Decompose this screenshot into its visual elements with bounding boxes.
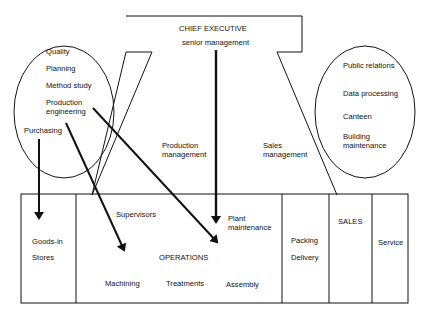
- production-management-line1: Production: [162, 141, 198, 150]
- supervisors-label: Supervisors: [116, 210, 156, 219]
- machining-label: Machining: [105, 279, 140, 288]
- operations-label: OPERATIONS: [159, 253, 208, 262]
- delivery-label: Delivery: [291, 253, 318, 262]
- chief-executive-subtitle: senior management: [182, 38, 249, 47]
- sales-label: SALES: [338, 217, 362, 226]
- assembly-label: Assembly: [226, 280, 259, 289]
- plant-maintenance-line2: maintenance: [228, 223, 271, 232]
- right-item-building: Building: [343, 132, 370, 141]
- arrow-to-machining: [66, 123, 124, 250]
- right-item-data-processing: Data processing: [343, 89, 398, 98]
- packing-label: Packing: [291, 236, 318, 245]
- operations-box: [21, 194, 408, 303]
- left-item-production: Production: [46, 98, 82, 107]
- goods-in-label: Goods-in: [32, 237, 63, 246]
- production-management-line2: management: [162, 150, 206, 159]
- treatments-label: Treatments: [166, 279, 204, 288]
- sales-management-line2: management: [263, 150, 307, 159]
- left-item-engineering: engineering: [46, 107, 86, 116]
- sales-management-line1: Sales: [263, 141, 282, 150]
- stores-label: Stores: [32, 253, 54, 262]
- right-item-maintenance: maintenance: [343, 141, 386, 150]
- service-label: Service: [378, 238, 403, 247]
- right-item-canteen: Canteen: [343, 112, 372, 121]
- left-item-quality: Quality: [46, 47, 70, 56]
- purchasing-label: Purchasing: [24, 126, 62, 135]
- left-item-planning: Planning: [46, 64, 76, 73]
- right-item-public-relations: Public relations: [343, 61, 395, 70]
- left-item-method-study: Method study: [46, 81, 92, 90]
- plant-maintenance-line1: Plant: [228, 214, 245, 223]
- chief-executive-title: CHIEF EXECUTIVE: [179, 24, 247, 33]
